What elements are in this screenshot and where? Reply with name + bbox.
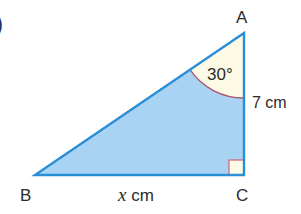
side-bc-unit: cm <box>131 186 154 205</box>
side-bc-variable: x <box>118 184 126 205</box>
right-angle-marker <box>229 160 244 175</box>
vertex-label-b: B <box>20 187 31 204</box>
vertex-label-a: A <box>236 9 247 26</box>
side-bc-label: x cm <box>118 185 154 204</box>
right-triangle-diagram: ) A B C 30° 7 cm x cm <box>0 0 301 214</box>
vertex-label-c: C <box>236 187 248 204</box>
angle-a-label: 30° <box>207 66 233 83</box>
side-ac-label: 7 cm <box>252 95 287 111</box>
